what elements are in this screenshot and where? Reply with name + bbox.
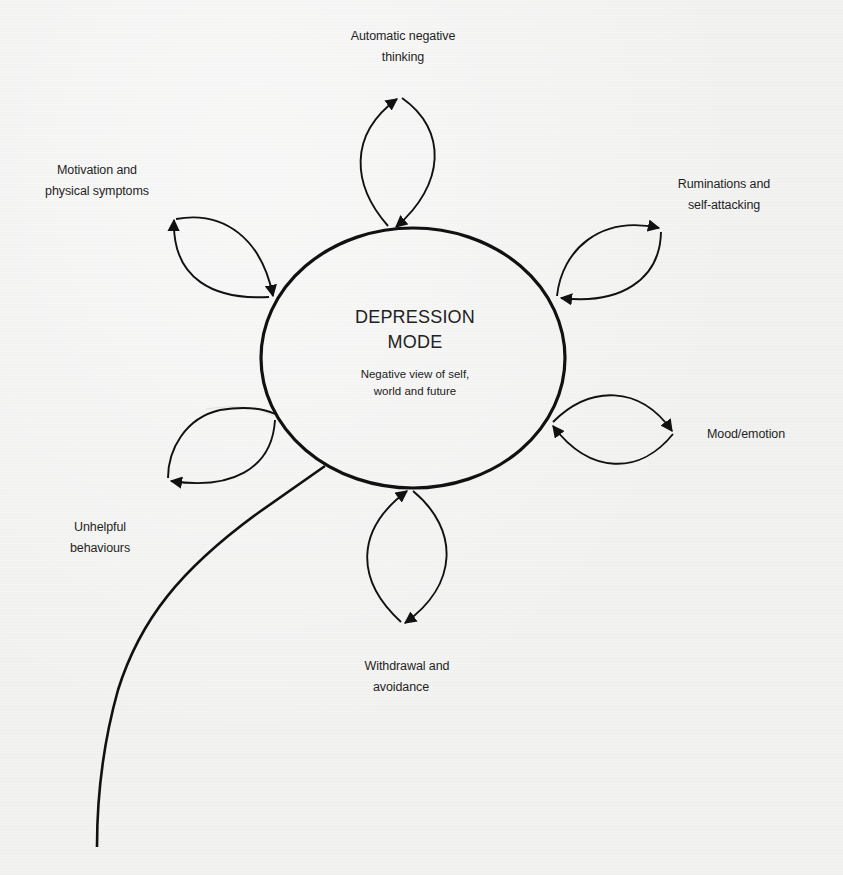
label-line: Ruminations and — [665, 174, 783, 195]
label-mood-emotion: Mood/emotion — [707, 424, 785, 445]
label-line: behaviours — [57, 538, 143, 559]
center-title-line: MODE — [315, 330, 515, 355]
label-line: Unhelpful — [57, 517, 143, 538]
label-automatic-negative-thinking: Automatic negative thinking — [338, 26, 468, 68]
label-line: Motivation and — [26, 160, 168, 181]
petal-withdrawal-avoidance — [367, 491, 446, 623]
label-unhelpful-behaviours: Unhelpful behaviours — [57, 517, 143, 559]
label-motivation-physical: Motivation and physical symptoms — [26, 160, 168, 202]
petal-motivation-physical — [174, 217, 273, 297]
label-ruminations: Ruminations and self-attacking — [665, 174, 783, 216]
label-line: physical symptoms — [26, 181, 168, 202]
center-subtitle: Negative view of self, world and future — [315, 366, 515, 400]
label-line: self-attacking — [665, 195, 783, 216]
center-title: DEPRESSION MODE — [315, 305, 515, 355]
label-line: avoidance — [349, 677, 453, 698]
petal-ruminations — [557, 225, 661, 299]
center-subtitle-line: Negative view of self, — [315, 366, 515, 383]
label-line: Mood/emotion — [707, 424, 785, 445]
petal-mood-emotion — [553, 395, 673, 464]
petal-automatic-negative-thinking — [361, 98, 435, 227]
label-line: thinking — [338, 47, 468, 68]
petal-unhelpful-behaviours — [168, 407, 275, 483]
label-line: Automatic negative — [338, 26, 468, 47]
label-withdrawal-avoidance: Withdrawal and avoidance — [349, 656, 465, 698]
label-line: Withdrawal and — [349, 656, 465, 677]
center-subtitle-line: world and future — [315, 383, 515, 400]
central-circle — [261, 228, 565, 488]
center-title-line: DEPRESSION — [315, 305, 515, 330]
